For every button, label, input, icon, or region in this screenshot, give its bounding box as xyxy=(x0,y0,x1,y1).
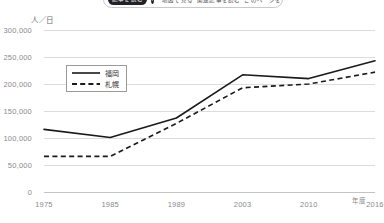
y-axis-tick-label: 100,000 xyxy=(3,134,32,143)
x-axis-unit-label: 年度 xyxy=(352,195,367,205)
y-axis-unit-label: 人／日 xyxy=(31,14,54,25)
toolbar-item-map[interactable]: 地図で見る xyxy=(162,0,193,4)
y-axis-tick-label: 150,000 xyxy=(3,107,32,116)
y-axis-tick-label: 50,000 xyxy=(8,161,32,170)
x-axis-tick-label: 2010 xyxy=(300,200,318,209)
top-toolbar-pill[interactable]: 記事を読む ▾ 地図で見る 関連記事を読む このページを共有する xyxy=(103,0,283,8)
x-axis-tick-label: 2016 xyxy=(366,200,384,209)
series-lines xyxy=(44,30,375,192)
x-axis-tick-label: 1975 xyxy=(35,200,53,209)
legend-item-sapporo: 札幌 xyxy=(71,80,120,88)
y-axis-tick-label: 250,000 xyxy=(3,53,32,62)
chart-legend: 福岡 札幌 xyxy=(66,65,127,92)
x-axis-tick-label: 1985 xyxy=(101,200,119,209)
read-article-chip[interactable]: 記事を読む xyxy=(108,0,147,5)
toolbar-item-share[interactable]: このページを共有する xyxy=(244,0,283,4)
top-toolbar-strip: 記事を読む ▾ 地図で見る 関連記事を読む このページを共有する xyxy=(0,0,383,9)
legend-swatch-dashed xyxy=(71,80,101,88)
legend-swatch-solid xyxy=(71,69,101,77)
x-axis-tick-label: 2003 xyxy=(234,200,252,209)
y-axis-tick-label: 300,000 xyxy=(3,26,32,35)
x-axis-tick-label: 1989 xyxy=(168,200,186,209)
legend-item-fukuoka: 福岡 xyxy=(71,69,120,77)
gridline xyxy=(44,192,375,193)
plot-area: 050,000100,000150,000200,000250,000300,0… xyxy=(44,30,375,192)
legend-label-sapporo: 札幌 xyxy=(105,79,120,89)
line-chart: 人／日 050,000100,000150,000200,000250,0003… xyxy=(0,9,383,223)
legend-label-fukuoka: 福岡 xyxy=(105,68,120,78)
y-axis-tick-label: 0 xyxy=(28,188,32,197)
y-axis-tick-label: 200,000 xyxy=(3,80,32,89)
chevron-down-icon[interactable]: ▾ xyxy=(151,0,154,4)
toolbar-item-related[interactable]: 関連記事を読む xyxy=(197,0,240,4)
